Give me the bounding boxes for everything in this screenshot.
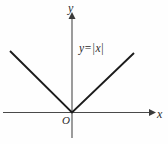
absolute-value-graph-figure: y x O y=|x| [0,0,168,144]
origin-label: O [62,115,70,126]
equation-label: y=|x| [79,43,104,55]
equation-bar-close: | [101,42,105,54]
equation-operator: = [84,42,92,54]
y-axis-label: y [68,2,73,14]
x-axis-arrow-icon [149,109,156,116]
x-axis-label: x [157,108,162,120]
graph-canvas [0,0,168,144]
